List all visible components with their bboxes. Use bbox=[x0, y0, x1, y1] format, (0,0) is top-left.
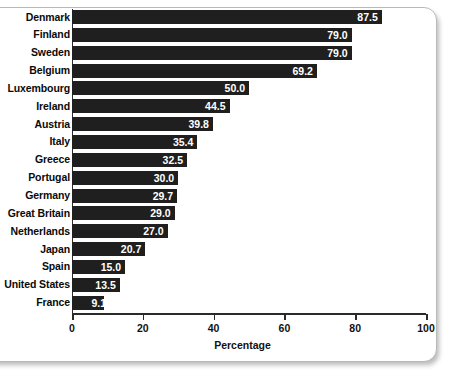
category-label: Ireland bbox=[36, 99, 70, 113]
category-label: Finland bbox=[33, 27, 70, 41]
bar-value-label: 20.7 bbox=[111, 242, 141, 256]
bar-value-label: 27.0 bbox=[134, 224, 164, 238]
bar-value-label: 39.8 bbox=[179, 117, 209, 131]
category-label: France bbox=[36, 295, 70, 309]
x-tick bbox=[214, 314, 216, 320]
category-label: Spain bbox=[42, 259, 70, 273]
x-tick bbox=[72, 314, 74, 320]
bar-value-label: 9.1 bbox=[76, 296, 106, 310]
bar bbox=[72, 28, 352, 42]
bar-value-label: 79.0 bbox=[318, 46, 348, 60]
bar-value-label: 87.5 bbox=[348, 10, 378, 24]
bar-value-label: 69.2 bbox=[283, 64, 313, 78]
bar-value-label: 29.0 bbox=[141, 206, 171, 220]
category-label: Sweden bbox=[31, 45, 70, 59]
category-label: Belgium bbox=[29, 63, 70, 77]
x-tick-label: 20 bbox=[137, 322, 149, 334]
x-axis-title: Percentage bbox=[0, 339, 453, 351]
category-label: Denmark bbox=[26, 10, 70, 24]
chart-figure: 87.579.079.069.250.044.539.835.432.530.0… bbox=[0, 0, 453, 377]
x-tick bbox=[284, 314, 286, 320]
category-label: United States bbox=[4, 277, 70, 291]
bar-value-label: 13.5 bbox=[86, 278, 116, 292]
category-label: Portugal bbox=[28, 170, 70, 184]
x-tick bbox=[143, 314, 145, 320]
bar-value-label: 79.0 bbox=[318, 28, 348, 42]
bar bbox=[72, 46, 352, 60]
category-label: Japan bbox=[40, 242, 70, 256]
bar-value-label: 30.0 bbox=[144, 171, 174, 185]
bar-value-label: 35.4 bbox=[163, 135, 193, 149]
bar-value-label: 50.0 bbox=[215, 81, 245, 95]
bar bbox=[72, 10, 382, 24]
x-tick-label: 40 bbox=[208, 322, 220, 334]
x-tick-label: 100 bbox=[417, 322, 435, 334]
bar-value-label: 44.5 bbox=[196, 99, 226, 113]
category-label: Germany bbox=[25, 188, 70, 202]
bar-chart-plot-area: 87.579.079.069.250.044.539.835.432.530.0… bbox=[0, 0, 453, 377]
x-tick-label: 80 bbox=[349, 322, 361, 334]
category-label: Italy bbox=[49, 134, 70, 148]
x-tick-label: 0 bbox=[69, 322, 75, 334]
bar-value-label: 32.5 bbox=[153, 153, 183, 167]
bar-value-label: 15.0 bbox=[91, 260, 121, 274]
category-label: Greece bbox=[35, 152, 70, 166]
x-axis-line bbox=[72, 313, 426, 315]
bar bbox=[72, 64, 317, 78]
category-label: Great Britain bbox=[8, 206, 70, 220]
category-label: Netherlands bbox=[10, 224, 70, 238]
category-label: Austria bbox=[35, 117, 70, 131]
x-tick-label: 60 bbox=[279, 322, 291, 334]
x-tick bbox=[426, 314, 428, 320]
x-tick bbox=[355, 314, 357, 320]
bar-value-label: 29.7 bbox=[143, 189, 173, 203]
category-label: Luxembourg bbox=[7, 81, 70, 95]
